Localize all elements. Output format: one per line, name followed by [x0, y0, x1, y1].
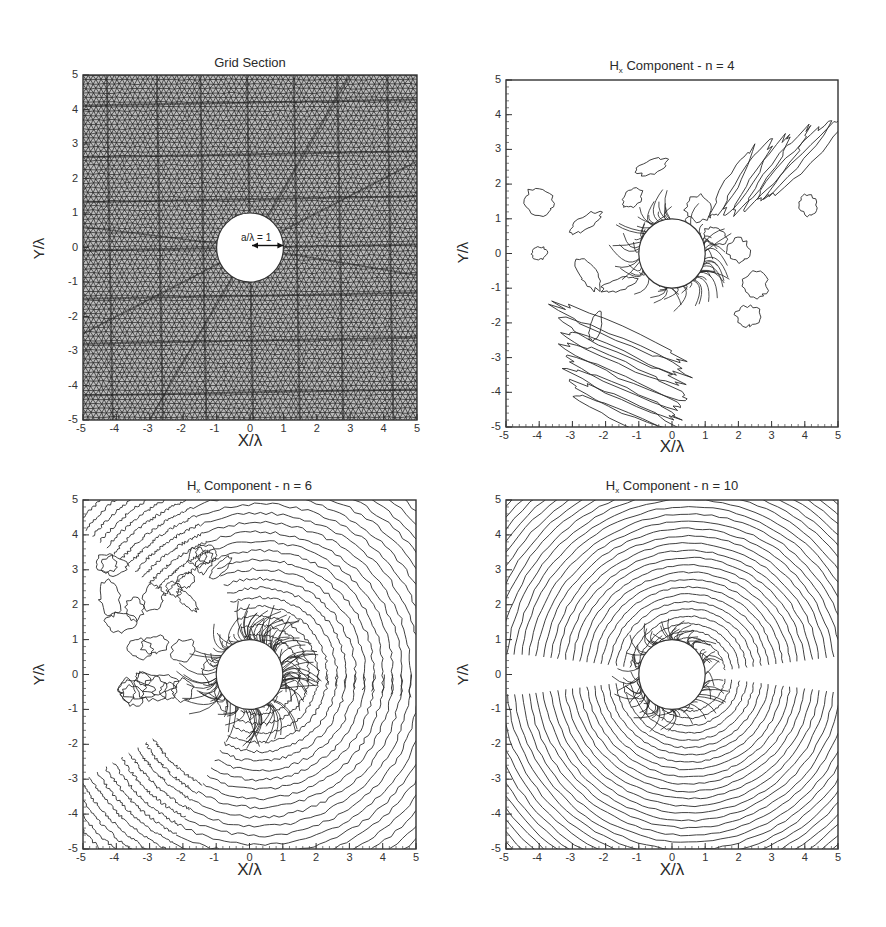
y-tick-label: -3: [491, 772, 501, 784]
x-tick-label: 4: [802, 851, 808, 863]
y-tick-label: 2: [495, 598, 501, 610]
x-tick-label: 2: [735, 851, 741, 863]
y-tick-label: 1: [495, 633, 501, 645]
contour-plot-area: [0, 0, 886, 927]
x-tick-label: -3: [565, 851, 575, 863]
panel-hx-n10: Hx Component - n = 10 X/λ Y/λ -5-4-3-2-1…: [0, 0, 886, 927]
x-tick-label: -2: [599, 851, 609, 863]
y-tick-label: 4: [495, 528, 501, 540]
y-tick-label: -2: [491, 737, 501, 749]
y-axis-label: Y/λ: [454, 664, 471, 686]
y-tick-label: -4: [491, 807, 501, 819]
x-tick-label: -1: [632, 851, 642, 863]
x-axis-label: X/λ: [506, 860, 838, 880]
x-tick-label: 5: [835, 851, 841, 863]
x-tick-label: 1: [702, 851, 708, 863]
x-tick-label: 3: [769, 851, 775, 863]
x-tick-label: 0: [669, 851, 675, 863]
y-tick-label: 0: [495, 668, 501, 680]
y-tick-label: -5: [491, 842, 501, 854]
cylinder-obstacle: [639, 640, 705, 710]
y-tick-label: 5: [495, 493, 501, 505]
y-tick-label: -1: [491, 702, 501, 714]
x-tick-label: -4: [532, 851, 542, 863]
y-tick-label: 3: [495, 563, 501, 575]
